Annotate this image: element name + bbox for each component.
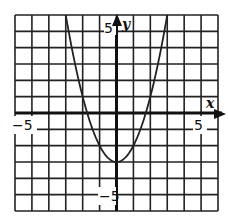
parabola-graph: −5 5 5 −5 y x xyxy=(0,0,228,223)
x-axis-name: x xyxy=(205,95,215,111)
y-axis-name: y xyxy=(121,16,131,32)
y-tick-label-neg5: −5 xyxy=(99,188,120,204)
x-axis-arrow-icon xyxy=(214,109,226,119)
x-tick-label-5: 5 xyxy=(194,117,203,133)
x-tick-label-neg5: −5 xyxy=(12,117,33,133)
y-tick-label-5: 5 xyxy=(104,20,113,36)
